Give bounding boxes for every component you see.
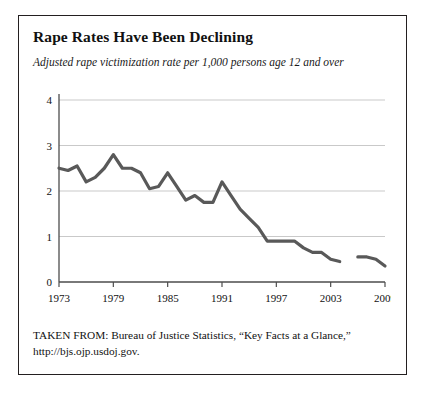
chart-subtitle: Adjusted rape victimization rate per 1,0…: [33, 56, 344, 68]
source-citation: TAKEN FROM: Bureau of Justice Statistics…: [33, 328, 395, 359]
line-chart: 012341973197919851991199720032009: [33, 86, 391, 316]
x-tick-label-2009: 2009: [374, 292, 391, 304]
y-tick-label-2: 2: [47, 185, 53, 197]
source-line-2: http://bjs.ojp.usdoj.gov.: [33, 344, 395, 360]
page-title: Rape Rates Have Been Declining: [33, 28, 253, 46]
data-line-series-1: [358, 257, 385, 266]
data-line-series-0: [59, 155, 340, 262]
x-tick-label-2003: 2003: [320, 292, 343, 304]
y-tick-label-0: 0: [47, 276, 53, 288]
x-tick-label-1997: 1997: [265, 292, 288, 304]
x-tick-label-1985: 1985: [157, 292, 180, 304]
chart-svg: 012341973197919851991199720032009: [33, 86, 391, 316]
source-line-1: TAKEN FROM: Bureau of Justice Statistics…: [33, 328, 395, 344]
y-tick-label-3: 3: [47, 140, 53, 152]
y-tick-label-4: 4: [47, 94, 53, 106]
x-tick-label-1973: 1973: [48, 292, 71, 304]
x-tick-label-1991: 1991: [211, 292, 233, 304]
y-tick-label-1: 1: [47, 231, 53, 243]
x-tick-label-1979: 1979: [102, 292, 125, 304]
figure-box: Rape Rates Have Been Declining Adjusted …: [18, 15, 407, 375]
